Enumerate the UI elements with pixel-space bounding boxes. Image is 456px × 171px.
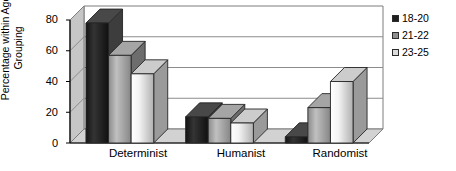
bar-determinist-21-22-front bbox=[109, 55, 132, 143]
bar-randomist-18-20-front bbox=[285, 137, 308, 143]
legend-item-23-25: 23-25 bbox=[392, 44, 456, 61]
bar-chart: Percentage within Age Grouping 80 60 40 … bbox=[0, 0, 456, 171]
bar-randomist-21-22-front bbox=[308, 108, 331, 143]
legend-swatch-icon-21-22 bbox=[392, 32, 399, 39]
bar-humanist-21-22-front bbox=[208, 118, 231, 143]
legend-item-21-22: 21-22 bbox=[392, 27, 456, 44]
x-category-label-humanist: Humanist bbox=[186, 146, 296, 160]
x-category-label-randomist: Randomist bbox=[285, 146, 395, 160]
legend-swatch-icon-18-20 bbox=[392, 15, 399, 22]
bar-humanist-23-25-front bbox=[231, 123, 254, 143]
legend-label-18-20: 18-20 bbox=[402, 13, 429, 24]
bar-humanist-18-20-front bbox=[186, 117, 209, 143]
bar-determinist-18-20-front bbox=[86, 23, 109, 143]
legend-label-23-25: 23-25 bbox=[402, 47, 429, 58]
bar-determinist-23-25-front bbox=[131, 74, 154, 143]
chart-legend: 18-20 21-22 23-25 bbox=[392, 10, 456, 61]
bar-randomist-23-25-front bbox=[330, 82, 353, 144]
legend-swatch-icon-23-25 bbox=[392, 49, 399, 56]
x-category-label-determinist: Determinist bbox=[78, 146, 198, 160]
plot-area: Determinist Humanist Randomist bbox=[0, 0, 456, 171]
legend-label-21-22: 21-22 bbox=[402, 30, 429, 41]
legend-item-18-20: 18-20 bbox=[392, 10, 456, 27]
